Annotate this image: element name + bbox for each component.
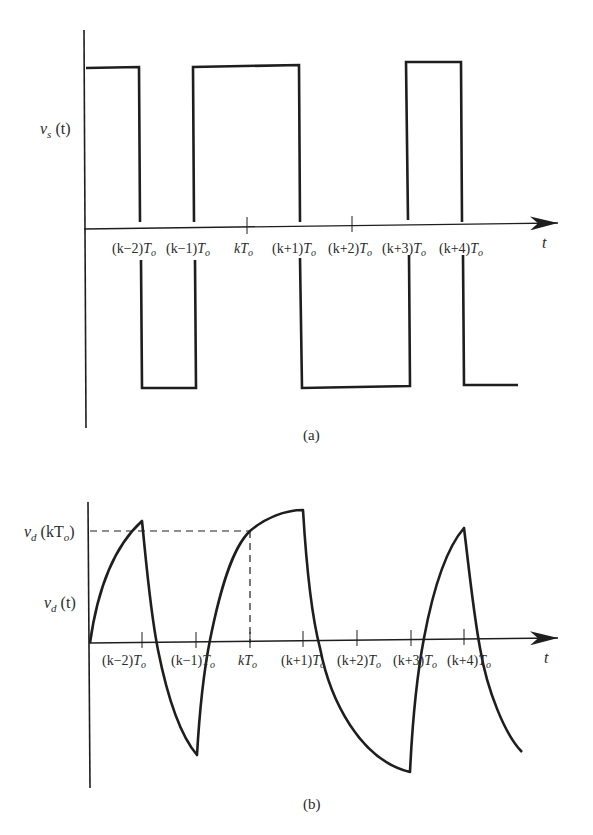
x-axis-a xyxy=(84,223,558,229)
tick-label-k-2: (k−2)To xyxy=(112,241,156,258)
tick-label-b-k-1: (k−1)To xyxy=(171,653,215,670)
tick-label-b-k-2: (k−2)To xyxy=(102,653,146,670)
caption-a: (a) xyxy=(303,427,320,444)
x-ticks-b xyxy=(142,629,464,648)
caption-b: (b) xyxy=(303,796,321,813)
figure-a: vs (t) (k−2)To (k−1)To kTo (k+1)To (k+2)… xyxy=(40,30,558,444)
y-label-vs: vs (t) xyxy=(40,120,71,140)
x-label-t-a: t xyxy=(542,234,547,251)
tick-label-b-k+4: (k+4)To xyxy=(447,653,491,670)
x-label-t-b: t xyxy=(544,649,549,666)
tick-label-k: kTo xyxy=(234,241,253,258)
figure-b: vd (kTo) vd (t) (k−2)To (k−1)To kTo (k+1… xyxy=(24,502,558,813)
tick-label-k-1: (k−1)To xyxy=(166,241,210,258)
tick-label-b-k: kTo xyxy=(238,653,257,670)
y-label-vd: vd (t) xyxy=(44,594,76,614)
tick-label-b-k+3: (k+3)To xyxy=(393,653,437,670)
tick-label-k+2: (k+2)To xyxy=(328,241,372,258)
tick-label-b-k+1: (k+1)To xyxy=(281,653,325,670)
tick-labels-a: (k−2)To (k−1)To kTo (k+1)To (k+2)To (k+3… xyxy=(112,241,483,258)
level-label-vd-kto: vd (kTo) xyxy=(24,523,75,543)
tick-label-k+3: (k+3)To xyxy=(382,241,426,258)
tick-label-k+1: (k+1)To xyxy=(272,241,316,258)
x-axis-b xyxy=(89,638,558,643)
tick-label-b-k+2: (k+2)To xyxy=(337,653,381,670)
tick-label-k+4: (k+4)To xyxy=(439,241,483,258)
y-axis-b xyxy=(88,502,90,788)
figure-canvas: vs (t) (k−2)To (k−1)To kTo (k+1)To (k+2)… xyxy=(0,0,593,835)
